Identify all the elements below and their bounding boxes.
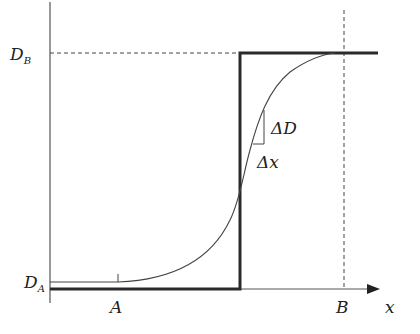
x-axis-label: x: [385, 297, 395, 317]
a-label: A: [108, 297, 122, 317]
da-label: DA: [23, 272, 45, 294]
diagram-canvas: DB DA A B x ΔD Δx: [0, 0, 420, 334]
db-label: DB: [9, 44, 31, 66]
x-axis-arrow-icon: [367, 284, 380, 294]
delta-x-label: Δx: [256, 152, 279, 172]
step-function-curve: [50, 53, 378, 289]
b-label: B: [335, 297, 349, 317]
smooth-profile-curve: [118, 53, 335, 282]
slope-triangle: [253, 110, 264, 144]
delta-d-label: ΔD: [270, 118, 297, 138]
